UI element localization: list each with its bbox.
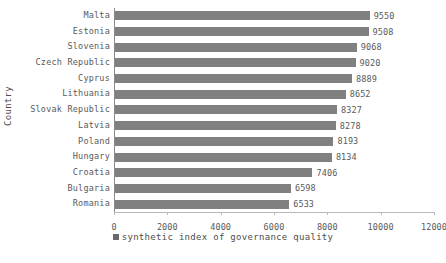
category-label: Latvia	[0, 118, 110, 134]
x-tick-mark	[114, 212, 115, 215]
bar-row: 8652	[115, 86, 371, 102]
category-label: Malta	[0, 8, 110, 24]
x-tick-mark	[274, 212, 275, 215]
bar	[115, 58, 356, 67]
bar	[115, 43, 357, 52]
bar-value-label: 8889	[356, 74, 377, 84]
bar-value-label: 8327	[341, 105, 362, 115]
bar-value-label: 6598	[295, 183, 316, 193]
bar-row: 9550	[115, 8, 395, 24]
category-label: Romania	[0, 196, 110, 212]
plot-area: 9550950890689020888986528327827881938134…	[114, 8, 434, 212]
bar-value-label: 8278	[340, 121, 361, 131]
category-label: Cyprus	[0, 71, 110, 87]
bar	[115, 184, 291, 193]
bar-value-label: 8193	[337, 136, 358, 146]
bar-row: 9020	[115, 55, 380, 71]
bar-value-label: 8652	[350, 89, 371, 99]
bar	[115, 74, 352, 83]
category-label: Slovak Republic	[0, 102, 110, 118]
bar	[115, 137, 333, 146]
bar-row: 9068	[115, 39, 382, 55]
bar	[115, 200, 289, 209]
legend-swatch-icon	[113, 234, 119, 240]
category-label: Slovenia	[0, 39, 110, 55]
bar-value-label: 9068	[361, 42, 382, 52]
bar	[115, 121, 336, 130]
bar	[115, 27, 369, 36]
bar-value-label: 9508	[373, 27, 394, 37]
x-tick-mark	[434, 212, 435, 215]
x-tick-label: 6000	[264, 222, 285, 232]
category-label: Hungary	[0, 149, 110, 165]
x-tick-mark	[381, 212, 382, 215]
bar-row: 8278	[115, 118, 361, 134]
bar	[115, 105, 337, 114]
x-tick-label: 8000	[317, 222, 338, 232]
bar-chart: Country 95509508906890208889865283278278…	[0, 0, 446, 263]
bar	[115, 168, 312, 177]
category-label: Croatia	[0, 165, 110, 181]
bar-value-label: 6533	[293, 199, 314, 209]
category-label: Poland	[0, 134, 110, 150]
x-tick-label: 0	[111, 222, 116, 232]
bar-value-label: 7406	[316, 168, 337, 178]
bar-row: 6533	[115, 196, 314, 212]
x-tick-label: 10000	[368, 222, 394, 232]
x-tick-mark	[221, 212, 222, 215]
category-label: Czech Republic	[0, 55, 110, 71]
bar-row: 9508	[115, 24, 393, 40]
chart-legend: synthetic index of governance quality	[0, 232, 446, 242]
bar-row: 8134	[115, 149, 357, 165]
category-label: Estonia	[0, 24, 110, 40]
bar-value-label: 8134	[336, 152, 357, 162]
bar-row: 8327	[115, 102, 362, 118]
x-tick-label: 12000	[421, 222, 446, 232]
bar-row: 6598	[115, 181, 316, 197]
bar-value-label: 9550	[374, 11, 395, 21]
category-label: Bulgaria	[0, 181, 110, 197]
x-tick-mark	[327, 212, 328, 215]
bar	[115, 11, 370, 20]
bar-row: 8193	[115, 134, 358, 150]
x-tick-label: 4000	[210, 222, 231, 232]
x-tick-mark	[167, 212, 168, 215]
bar	[115, 90, 346, 99]
bar-value-label: 9020	[360, 58, 381, 68]
legend-label: synthetic index of governance quality	[122, 232, 334, 242]
bar-row: 7406	[115, 165, 337, 181]
bar	[115, 153, 332, 162]
bar-row: 8889	[115, 71, 377, 87]
x-tick-label: 2000	[157, 222, 178, 232]
category-label: Lithuania	[0, 86, 110, 102]
